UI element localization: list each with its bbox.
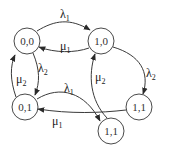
state-diagram: λ1 μ1 λ2 μ2 λ2 μ2 λ1 μ1 0,0 1,0 0,1 1,1 …	[0, 0, 170, 153]
state-node-0-1: 0,1	[12, 94, 38, 120]
label-lambda2-left: λ2	[38, 61, 48, 77]
node-label: 1,1	[104, 125, 118, 137]
node-label: 1,1	[132, 101, 146, 113]
edge-01-to-11b	[37, 92, 100, 121]
edge-10-to-11	[113, 47, 145, 94]
edge-00-to-10	[37, 22, 90, 31]
label-mu1-top: μ1	[60, 39, 70, 55]
node-label: 0,0	[20, 35, 34, 47]
node-label: 1,0	[94, 35, 108, 47]
node-label: 0,1	[18, 101, 32, 113]
state-node-0-0: 0,0	[14, 28, 40, 54]
label-mu2-left: μ2	[16, 72, 26, 88]
edge-11b-to-10	[91, 54, 107, 118]
edge-11a-to-01	[38, 109, 126, 113]
label-lambda2-right: λ2	[146, 66, 156, 82]
label-mu1-bottom: μ1	[52, 114, 62, 130]
label-lambda1-center: λ1	[64, 81, 74, 97]
label-lambda1-top: λ1	[60, 7, 70, 23]
state-node-1-1-right: 1,1	[126, 94, 152, 120]
label-mu2-center: μ2	[95, 70, 105, 86]
state-node-1-0: 1,0	[88, 28, 114, 54]
state-node-1-1-bottom: 1,1	[98, 118, 124, 144]
